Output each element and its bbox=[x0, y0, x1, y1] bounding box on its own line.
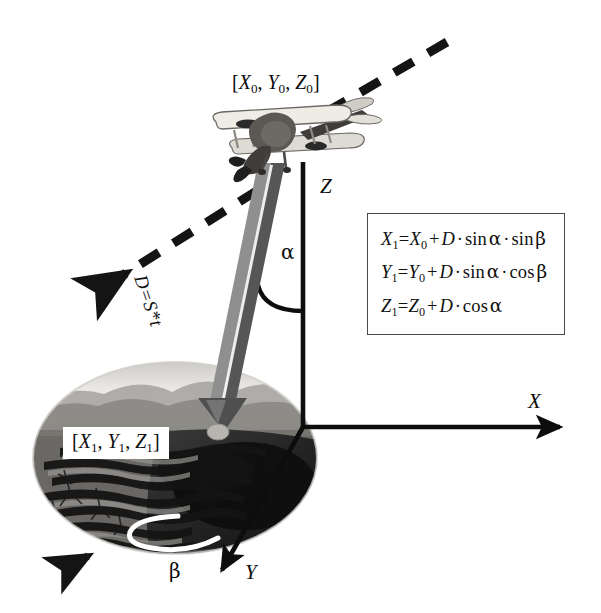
coord-z: Z bbox=[135, 430, 146, 452]
formula-y-d: D bbox=[439, 262, 453, 282]
formula-y-term0: Y bbox=[408, 262, 419, 282]
formula-x-fn-2: sin bbox=[511, 229, 533, 249]
formula-z-dot-1: · bbox=[455, 296, 461, 316]
coord-z: Z bbox=[295, 71, 306, 93]
formula-x-arg-2: β bbox=[535, 228, 546, 249]
coord-y: Y bbox=[107, 430, 118, 452]
ground-point-label: [X1, Y1, Z1] bbox=[63, 427, 169, 459]
aircraft-position-label: [X0, Y0, Z0] bbox=[232, 72, 320, 95]
formula-z-arg-1: α bbox=[490, 295, 503, 316]
bracket-close: ] bbox=[313, 71, 320, 93]
axis-x-label: X bbox=[528, 391, 541, 412]
coord-sep-1: , bbox=[97, 430, 107, 452]
bracket-open: [ bbox=[72, 430, 79, 452]
axis-z-label: Z bbox=[320, 176, 332, 197]
coord-sep-2: , bbox=[125, 430, 135, 452]
formula-y-dot-2: · bbox=[501, 262, 507, 282]
formula-x-dot-1: · bbox=[457, 229, 463, 249]
formula-x-lhs: X bbox=[381, 229, 393, 249]
bracket-open: [ bbox=[232, 71, 239, 93]
formula-x-plus: + bbox=[429, 229, 440, 249]
formula-y-fn-2: cos bbox=[509, 262, 534, 282]
coord-x: X bbox=[239, 71, 251, 93]
figure-canvas: [X0, Y0, Z0] [X1, Y1, Z1] D=S*t Z X Y α … bbox=[0, 0, 601, 613]
coord-sep-2: , bbox=[285, 71, 295, 93]
formula-y-dot-1: · bbox=[455, 262, 461, 282]
formula-z-row: Z1=Z0 + D · cos α bbox=[381, 291, 553, 325]
formula-x-term0: X bbox=[409, 229, 421, 249]
formula-z-lhs: Z bbox=[381, 296, 392, 316]
formula-z-equals: = bbox=[398, 296, 409, 316]
alpha-angle-label: α bbox=[281, 242, 295, 262]
formula-x-equals: = bbox=[399, 229, 410, 249]
bracket-close: ] bbox=[153, 430, 160, 452]
formula-x-fn-1: sin bbox=[465, 229, 487, 249]
formula-box: X1=X0 + D · sin α · sin β Y1=Y0 + D · si… bbox=[367, 213, 565, 335]
formula-y-term0-sub: 0 bbox=[419, 271, 425, 285]
coord-y: Y bbox=[267, 71, 278, 93]
formula-x-arg-1: α bbox=[489, 228, 502, 249]
formula-z-fn-1: cos bbox=[463, 296, 488, 316]
formula-x-term0-sub: 0 bbox=[421, 237, 427, 251]
formula-x-row: X1=X0 + D · sin α · sin β bbox=[381, 223, 553, 257]
coord-z-sub: 0 bbox=[306, 81, 313, 96]
formula-z-term0-sub: 0 bbox=[419, 305, 425, 319]
formula-z-d: D bbox=[439, 296, 453, 316]
formula-y-plus: + bbox=[427, 262, 438, 282]
formula-y-fn-1: sin bbox=[463, 262, 485, 282]
coord-sep-1: , bbox=[257, 71, 267, 93]
formula-x-dot-2: · bbox=[503, 229, 509, 249]
coord-z-sub: 1 bbox=[146, 440, 153, 455]
beta-angle-label: β bbox=[169, 561, 181, 581]
formula-y-lhs: Y bbox=[381, 262, 392, 282]
biplane bbox=[213, 98, 382, 182]
formula-y-arg-1: α bbox=[487, 261, 500, 282]
coord-x: X bbox=[79, 430, 91, 452]
formula-z-term0: Z bbox=[408, 296, 419, 316]
formula-y-equals: = bbox=[398, 262, 409, 282]
formula-y-row: Y1=Y0 + D · sin α · cos β bbox=[381, 257, 553, 291]
axis-y-label: Y bbox=[245, 562, 257, 583]
formula-y-arg-2: β bbox=[536, 261, 547, 282]
formula-x-d: D bbox=[441, 229, 455, 249]
formula-z-plus: + bbox=[427, 296, 438, 316]
